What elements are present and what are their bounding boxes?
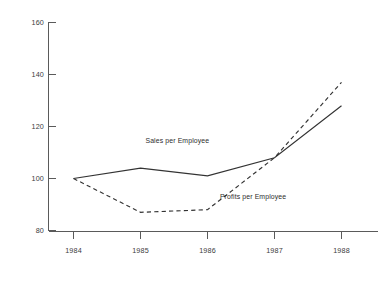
y-tick-label-120: 120 [32, 122, 44, 131]
y-axis-ticks [49, 23, 56, 231]
x-tick-label-1984: 1984 [65, 246, 82, 255]
y-tick-label-100: 100 [32, 174, 44, 183]
x-tick-label-1986: 1986 [199, 246, 216, 255]
series-line-profits-per-employee [74, 82, 342, 212]
x-tick-label-1987: 1987 [266, 246, 283, 255]
y-axis: 160 140 120 100 80 [32, 18, 56, 235]
y-tick-label-160: 160 [32, 18, 44, 27]
x-axis-labels: 1984 1985 1986 1987 1988 [65, 246, 350, 255]
x-tick-label-1988: 1988 [333, 246, 350, 255]
series-label-profits-per-employee: Profits per Employee [220, 193, 286, 201]
x-axis-ticks [74, 232, 342, 239]
y-tick-label-140: 140 [32, 70, 44, 79]
series-group [74, 82, 342, 212]
series-label-sales-per-employee: Sales per Employee [145, 137, 209, 145]
y-tick-label-80: 80 [36, 226, 44, 235]
y-axis-labels: 160 140 120 100 80 [32, 18, 44, 235]
x-tick-label-1985: 1985 [132, 246, 149, 255]
x-axis: 1984 1985 1986 1987 1988 [49, 232, 379, 256]
line-chart: 160 140 120 100 80 1984 1985 1986 1987 [0, 0, 391, 281]
chart-container: 160 140 120 100 80 1984 1985 1986 1987 [0, 0, 391, 281]
series-annotations: Sales per Employee Profits per Employee [145, 137, 286, 201]
